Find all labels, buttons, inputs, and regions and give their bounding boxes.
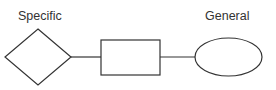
diamond-node[interactable] bbox=[5, 29, 71, 85]
label-specific: Specific bbox=[18, 10, 62, 23]
ellipse-node[interactable] bbox=[195, 38, 262, 76]
diagram-canvas: Specific General bbox=[0, 0, 276, 90]
rectangle-node[interactable] bbox=[101, 40, 160, 75]
label-general: General bbox=[205, 10, 249, 23]
